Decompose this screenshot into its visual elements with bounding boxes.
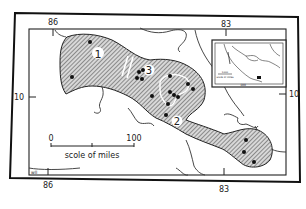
lon-label-top-left: 86 <box>48 18 58 27</box>
svg-text:1: 1 <box>95 48 102 61</box>
scale-end: 100 <box>126 134 141 143</box>
scale-caption: scole of miles <box>65 151 120 160</box>
lon-label-bottom-right: 83 <box>219 185 229 194</box>
lon-label-top-right: 83 <box>221 20 231 29</box>
lon-label-bottom-left: 86 <box>43 181 53 190</box>
lat-label-left: 10 <box>14 93 24 102</box>
credit-initials: wll <box>31 170 37 175</box>
svg-text:2: 2 <box>174 116 180 127</box>
svg-text:3: 3 <box>146 65 152 76</box>
svg-text:100: 100 <box>240 83 246 87</box>
svg-text:scale of miles: scale of miles <box>216 76 234 79</box>
svg-text:1000: 1000 <box>222 71 229 74</box>
inset-map: 1000 scale of miles 100 <box>212 40 286 87</box>
distribution-map: 1 3 2 86 83 <box>0 0 306 209</box>
lat-label-right: 10 <box>289 90 299 99</box>
scale-start: 0 <box>48 134 53 143</box>
